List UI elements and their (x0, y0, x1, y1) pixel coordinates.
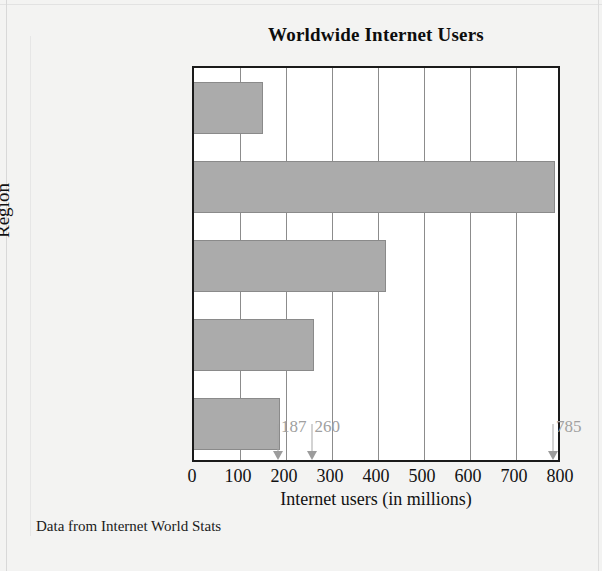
scan-artifact-top (0, 4, 602, 5)
chart-title: Worldwide Internet Users (192, 24, 560, 46)
bar (194, 319, 314, 371)
bar (194, 398, 280, 450)
x-tick-label: 600 (455, 466, 482, 487)
scan-artifact-left-inner (30, 36, 31, 536)
x-tick-label: 0 (188, 466, 197, 487)
x-axis-title: Internet users (in millions) (192, 489, 560, 510)
bar (194, 240, 386, 292)
y-axis-title: Region (0, 183, 14, 238)
x-tick-label: 200 (271, 466, 298, 487)
scan-artifact-right (598, 0, 599, 571)
x-tick-label: 800 (547, 466, 574, 487)
bar (194, 82, 263, 134)
scan-artifact-left (6, 0, 7, 571)
bars-layer (194, 68, 558, 460)
x-axis-tick-labels: 0100200300400500600700800 (192, 466, 560, 490)
bar (194, 161, 555, 213)
x-tick-label: 400 (363, 466, 390, 487)
x-tick-label: 500 (409, 466, 436, 487)
plot-area (192, 66, 560, 462)
x-tick-label: 700 (501, 466, 528, 487)
source-note: Data from Internet World Stats (36, 518, 221, 535)
x-tick-label: 300 (317, 466, 344, 487)
x-tick-label: 100 (225, 466, 252, 487)
chart-figure: Worldwide Internet Users Region Africa/ … (0, 0, 602, 571)
